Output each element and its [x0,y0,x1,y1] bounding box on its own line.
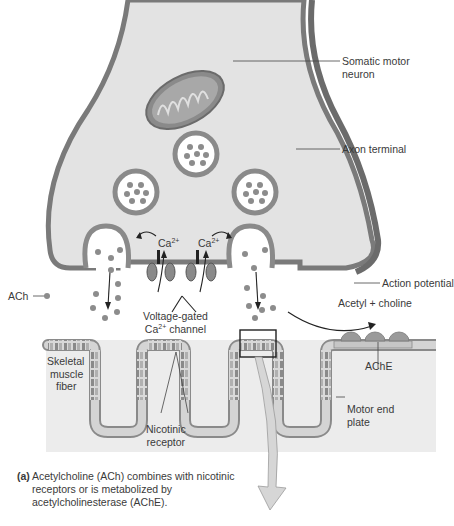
label-axon-terminal: Axon terminal [342,143,406,156]
ca-text: Ca [145,323,158,335]
channel-text: channel [166,323,206,335]
label-line: neuron [342,68,410,81]
label-ca-right: Ca2+ [198,237,219,250]
label-motor-end-plate: Motor end plate [347,403,394,428]
label-line: fiber [47,380,84,393]
label-acetyl-choline: Acetyl + choline [338,297,412,310]
figure-caption: (a) Acetylcholine (ACh) combines with ni… [17,470,247,509]
ach-dot-label [44,293,50,299]
caption-text: Acetylcholine (ACh) combines with nicoti… [32,470,247,509]
ca-superscript: 2+ [171,237,179,244]
label-line: receptor [146,436,186,449]
label-nicotinic-receptor: Nicotinic receptor [146,423,186,448]
caption-tag: (a) [17,470,30,483]
label-action-potential: Action potential [382,277,454,290]
label-line: plate [347,416,394,429]
ca-superscript: 2+ [211,237,219,244]
label-skeletal-muscle-fiber: Skeletal muscle fiber [47,355,84,393]
label-line: Voltage-gated [143,310,208,323]
label-line: muscle [47,368,84,381]
label-line: Somatic motor [342,55,410,68]
label-ache: AChE [365,360,392,373]
ca-text: Ca [158,237,171,249]
label-ach: ACh [8,290,28,303]
label-line: Ca2+ channel [143,323,208,336]
label-line: Skeletal [47,355,84,368]
label-somatic-motor-neuron: Somatic motor neuron [342,55,410,80]
label-ca-left: Ca2+ [158,237,179,250]
label-line: Nicotinic [146,423,186,436]
ache-enzymes [334,332,412,348]
ca-text: Ca [198,237,211,249]
label-voltage-gated-ca-channel: Voltage-gated Ca2+ channel [143,310,208,335]
label-line: Motor end [347,403,394,416]
